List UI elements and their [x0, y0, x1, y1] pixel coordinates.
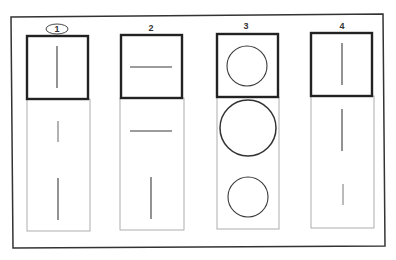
column-1 [27, 36, 90, 231]
column-3 [217, 34, 279, 229]
outer-frame [11, 14, 385, 248]
diagram-svg [0, 0, 396, 260]
column-3-reference-box [217, 34, 278, 97]
column-3-option-2-medium-circle [228, 177, 268, 217]
column-2-label: 2 [136, 23, 166, 33]
column-3-lower-panel [217, 97, 279, 229]
column-2 [120, 35, 184, 230]
column-3-reference-circle [227, 46, 267, 86]
column-3-label: 3 [231, 21, 261, 31]
column-2-lower-panel [120, 98, 184, 230]
column-1-label: 1 [42, 24, 72, 34]
column-4 [311, 33, 374, 228]
column-4-label: 4 [327, 21, 357, 31]
column-3-option-1-large-circle [220, 100, 276, 156]
diagram-canvas: 1 2 3 4 [0, 0, 396, 260]
